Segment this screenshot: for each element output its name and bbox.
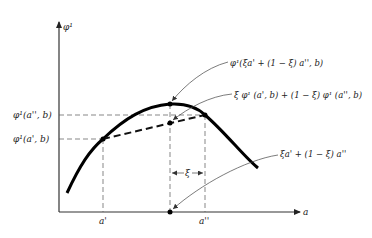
annotation-curve-point: φ¹(ξa' + (1 − ξ) a'', b) bbox=[230, 58, 323, 68]
point-curve-mix bbox=[168, 102, 173, 107]
concave-function-diagram: φ¹ a φ¹(a'', b) φ¹(a', b) a' a'' ξ φ¹(ξa… bbox=[0, 0, 372, 238]
y-axis-label: φ¹ bbox=[63, 22, 73, 32]
point-chord-mix bbox=[168, 121, 173, 126]
xi-label: ξ bbox=[185, 168, 191, 178]
concave-curve bbox=[67, 104, 258, 193]
annotation-axis-point: ξa' + (1 − ξ) a'' bbox=[280, 149, 346, 159]
x-tick-a2: a'' bbox=[199, 216, 209, 226]
diagram-canvas: φ¹ a φ¹(a'', b) φ¹(a', b) a' a'' ξ φ¹(ξa… bbox=[0, 0, 372, 238]
leader-curve-point bbox=[172, 62, 228, 101]
point-a1 bbox=[101, 137, 106, 142]
point-axis-mix bbox=[168, 210, 173, 215]
annotation-chord-point: ξ φ¹ (a', b) + (1 − ξ) φ¹ (a'', b) bbox=[234, 90, 362, 100]
leader-axis-point bbox=[173, 155, 278, 209]
y-tick-phi-a2: φ¹(a'', b) bbox=[13, 110, 52, 120]
y-tick-phi-a1: φ¹(a', b) bbox=[13, 134, 50, 144]
x-axis-label: a bbox=[303, 207, 308, 217]
point-a2 bbox=[203, 113, 208, 118]
x-tick-a1: a' bbox=[99, 216, 107, 226]
